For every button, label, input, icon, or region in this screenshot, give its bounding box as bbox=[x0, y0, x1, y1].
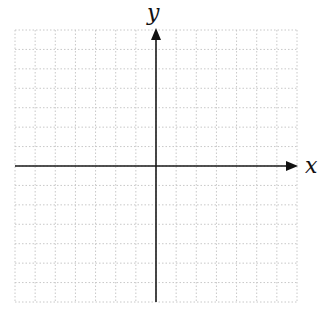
coordinate-plane: x y bbox=[0, 0, 334, 324]
x-axis-arrowhead-icon bbox=[286, 161, 298, 171]
x-axis-label: x bbox=[305, 153, 318, 178]
y-axis-label: y bbox=[146, 0, 160, 25]
